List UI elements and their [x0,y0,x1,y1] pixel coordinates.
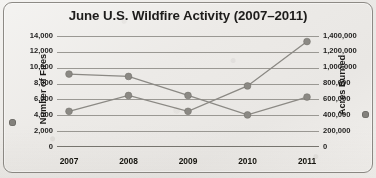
data-point-marker [125,92,132,99]
data-point-marker [185,92,192,99]
plot-area: 02,0004,0006,0008,00010,00012,00014,000 … [57,36,319,147]
data-point-marker [66,71,73,78]
data-point-marker [244,111,251,118]
x-axis-tick-label: 2009 [179,156,198,166]
data-point-marker [125,73,132,80]
data-point-marker [304,94,311,101]
x-axis-tick-label: 2007 [60,156,79,166]
data-point-marker [304,38,311,45]
y-axis-right-tick-label: 0 [323,143,327,151]
chart-title: June U.S. Wildfire Activity (2007–2011) [0,8,376,23]
y-axis-right-tick-label: 200,000 [323,127,350,135]
y-axis-left-tick-label: 10,000 [30,63,53,71]
y-axis-right-tick-label: 600,000 [323,95,350,103]
y-axis-right-tick-label: 1,200,000 [323,47,357,55]
y-axis-right-tick-label: 1,000,000 [323,63,357,71]
y-axis-left-tick-label: 14,000 [30,32,53,40]
y-axis-right-tick-label: 1,400,000 [323,32,357,40]
y-axis-left-tick-label: 2,000 [34,127,53,135]
data-point-marker [244,83,251,90]
y-axis-left-tick-label: 6,000 [34,95,53,103]
x-axis-tick-label: 2008 [119,156,138,166]
series-dot-icon-acres [362,111,369,118]
series-layer [57,36,319,147]
x-axis-tick-label: 2011 [298,156,316,166]
data-point-marker [185,108,192,115]
y-axis-left-tick-label: 0 [49,143,53,151]
y-axis-left-tick-label: 4,000 [34,111,53,119]
x-axis-tick-label: 2010 [238,156,257,166]
wildfire-activity-chart: June U.S. Wildfire Activity (2007–2011) … [0,0,376,178]
y-axis-left-tick-label: 8,000 [34,79,53,87]
series-line [69,42,307,112]
data-point-marker [66,108,73,115]
y-axis-right-tick-label: 400,000 [323,111,350,119]
y-axis-left-tick-label: 12,000 [30,47,53,55]
y-axis-right-tick-label: 800,000 [323,79,350,87]
series-dot-icon-fires [9,119,16,126]
